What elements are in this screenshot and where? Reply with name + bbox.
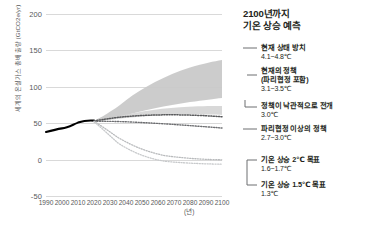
legend-item-value: 3.0℃: [261, 110, 375, 119]
legend-item-label: 현재의 정책: [261, 66, 375, 75]
y-tick-50: 50: [33, 119, 42, 128]
chart-root: 세계의 온실가스 총배출량 (GtCO2e/yr) 200 150 100 50…: [0, 0, 375, 243]
legend-item-beyond-paris[interactable]: 파리협정 이상의 정책 2.7~3.0℃: [261, 124, 375, 142]
series-dotted-beyond-paris: [94, 121, 222, 128]
y-tick-150: 150: [29, 46, 42, 55]
x-tick-2020: 2020: [87, 199, 102, 206]
legend-item-current-policy[interactable]: 현재의 정책 (파리협정 포함) 3.1~3.5℃: [261, 66, 375, 93]
x-tick-1990: 1990: [39, 199, 54, 206]
x-tick-2010: 2010: [71, 199, 86, 206]
legend: 2100년까지 기온 상승 예측 현재 상태 방치 4.1~4.8℃ 현재의 정…: [243, 8, 373, 40]
legend-item-value: 3.1~3.5℃: [261, 84, 375, 93]
legend-item-value: 1.3℃: [261, 189, 375, 198]
legend-item-business-as-usual[interactable]: 현재 상태 방치 4.1~4.8℃: [261, 43, 375, 61]
legend-item-1-5c-target[interactable]: 기온 상승 1.5℃ 목표 1.3℃: [261, 180, 375, 198]
x-tick-2040: 2040: [119, 199, 134, 206]
x-tick-2080: 2080: [183, 199, 198, 206]
y-tick-0: 0: [38, 155, 42, 164]
y-axis-label: 세계의 온실가스 총배출량 (GtCO2e/yr): [13, 5, 22, 112]
series-line-historical: [46, 120, 94, 132]
chart-series-svg: [46, 14, 222, 196]
x-tick-2090: 2090: [199, 199, 214, 206]
legend-item-label: 기온 상승 2℃ 목표: [261, 155, 375, 164]
legend-item-label: 기온 상승 1.5℃ 목표: [261, 180, 375, 189]
x-tick-2070: 2070: [167, 199, 182, 206]
legend-item-value: 1.6~1.7℃: [261, 164, 375, 173]
legend-item-2c-target[interactable]: 기온 상승 2℃ 목표 1.6~1.7℃: [261, 155, 375, 173]
x-tick-2050: 2050: [135, 199, 150, 206]
x-tick-2060: 2060: [151, 199, 166, 206]
series-dotted-2c-target: [94, 122, 222, 160]
plot-area: 200 150 100 50 0 -50 1990 2000 2010 2020…: [46, 14, 222, 196]
x-tick-2100: 2100: [215, 199, 230, 206]
legend-item-sublabel: (파리협정 포함): [261, 75, 375, 84]
x-tick-2000: 2000: [55, 199, 70, 206]
legend-item-value: 2.7~3.0℃: [261, 133, 375, 142]
gridline-minus50: [46, 196, 222, 197]
legend-item-optimistic-policy[interactable]: 정책이 낙관적으로 전개 3.0℃: [261, 101, 375, 119]
legend-item-label: 정책이 낙관적으로 전개: [261, 101, 375, 110]
x-axis-unit-label: (년): [184, 206, 194, 216]
y-tick-200: 200: [29, 10, 42, 19]
legend-item-label: 현재 상태 방치: [261, 43, 375, 52]
series-dotted-1-5c-target: [94, 122, 222, 164]
legend-item-label: 파리협정 이상의 정책: [261, 124, 375, 133]
x-tick-2030: 2030: [103, 199, 118, 206]
legend-item-value: 4.1~4.8℃: [261, 52, 375, 61]
y-tick-100: 100: [29, 82, 42, 91]
